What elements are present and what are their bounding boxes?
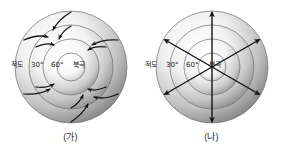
panel-b: 적도 30° 60° 북극 (나) bbox=[141, 0, 282, 160]
caption-a: (가) bbox=[0, 130, 141, 143]
globe-a-graphic bbox=[12, 8, 130, 126]
figure-root: 적도 30° 60° 북극 (가) bbox=[0, 0, 282, 160]
latitude-bands-a bbox=[15, 11, 127, 123]
globe-a bbox=[12, 8, 130, 126]
caption-b: (나) bbox=[141, 130, 282, 143]
globe-b-graphic bbox=[153, 8, 271, 126]
globe-b bbox=[153, 8, 271, 126]
panel-a: 적도 30° 60° 북극 (가) bbox=[0, 0, 141, 160]
